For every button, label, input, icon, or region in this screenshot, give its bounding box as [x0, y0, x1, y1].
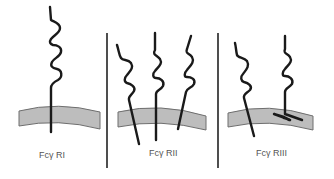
- membrane-panel-1: [19, 106, 100, 129]
- fcgr2-chain-left: [117, 45, 139, 144]
- label-fcgr3: Fcγ RIII: [256, 148, 287, 158]
- label-fcgr2: Fcγ RII: [149, 148, 178, 158]
- fcgr2-chain-middle: [153, 33, 163, 140]
- label-fcgr1: Fcγ RI: [39, 150, 65, 160]
- fcgr3-chain-gpi: [283, 36, 302, 120]
